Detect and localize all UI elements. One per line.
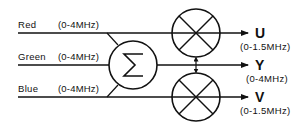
input-label-green: Green — [18, 51, 46, 62]
rgb-to-yuv-diagram: Red (0-4MHz) Green (0-4MHz) Blue (0-4MHz… — [0, 0, 300, 127]
input-band-red: (0-4MHz) — [58, 19, 99, 30]
output-label-u: U — [255, 25, 265, 41]
output-band-v: (0-1.5MHz) — [240, 105, 291, 116]
input-band-blue: (0-4MHz) — [58, 83, 99, 94]
blue-tap-line — [107, 85, 118, 97]
output-label-y: Y — [255, 57, 265, 73]
summation-icon — [109, 41, 157, 89]
input-label-red: Red — [18, 19, 36, 30]
output-label-v: V — [255, 89, 265, 105]
output-band-u: (0-1.5MHz) — [240, 41, 291, 52]
output-band-y: (0-4MHz) — [246, 73, 288, 84]
red-tap-line — [107, 33, 118, 45]
input-band-green: (0-4MHz) — [58, 51, 99, 62]
input-label-blue: Blue — [18, 83, 38, 94]
